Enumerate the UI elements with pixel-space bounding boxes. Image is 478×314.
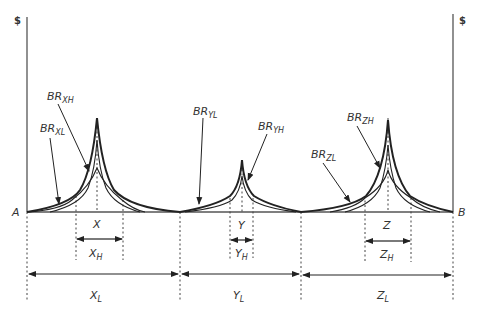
- low-range-arrows: [29, 274, 451, 275]
- label-br-xh: BRXH: [47, 90, 74, 105]
- br-yh-pointer: [248, 134, 267, 180]
- br-xh-pointer: [58, 104, 89, 171]
- label-br-yh: BRYH: [258, 120, 284, 135]
- end-label-b: B: [458, 206, 466, 219]
- br-yl-pointer: [199, 118, 203, 204]
- high-range-label-z: ZH: [379, 248, 394, 263]
- high-range-arrows: [77, 239, 410, 241]
- center-label-z: Z: [382, 219, 391, 232]
- low-range-label-y: YL: [233, 289, 244, 304]
- low-range-label-x: XL: [89, 289, 102, 304]
- label-br-zh: BRZH: [347, 111, 374, 126]
- origin-label-a: A: [11, 206, 20, 219]
- label-br-zl: BRZL: [311, 148, 336, 163]
- bid-rent-diagram: $ $ A B: [0, 0, 478, 314]
- br-xl-pointer: [50, 138, 59, 204]
- curves-z: [301, 120, 453, 212]
- right-axis-label: $: [459, 15, 466, 26]
- center-label-y: Y: [238, 219, 246, 232]
- center-label-x: X: [92, 218, 101, 231]
- low-range-label-z: ZL: [376, 289, 389, 304]
- label-br-xl: BRXL: [40, 122, 65, 137]
- br-zl-pointer: [323, 163, 350, 202]
- br-zh-curve: [301, 120, 453, 212]
- high-range-label-y: YH: [235, 247, 248, 262]
- br-zh-pointer: [357, 126, 380, 168]
- curves-y: [180, 160, 301, 212]
- high-range-label-x: XH: [88, 247, 103, 262]
- left-axis-label: $: [14, 15, 21, 26]
- label-br-yl: BRYL: [193, 105, 218, 120]
